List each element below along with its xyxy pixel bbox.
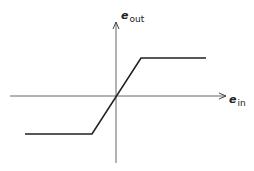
x-axis-subscript: in (237, 98, 245, 108)
x-axis-symbol: e (229, 93, 236, 106)
y-axis-symbol: e (121, 9, 128, 22)
x-axis-label: ein (229, 90, 246, 106)
y-axis-subscript: out (129, 14, 144, 24)
y-axis-label: eout (121, 6, 144, 22)
transfer-characteristic-plot (0, 0, 254, 171)
